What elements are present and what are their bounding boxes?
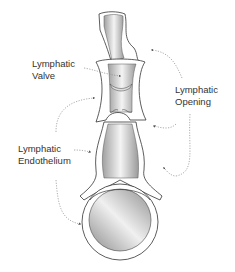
upper-vessel xyxy=(99,12,140,64)
label-line: Valve xyxy=(32,70,75,82)
label-line: Lymphatic xyxy=(175,84,218,96)
endothelium-leader-upper xyxy=(56,98,94,132)
label-lymphatic-valve: Lymphatic Valve xyxy=(32,58,75,82)
endothelium-leader-mid xyxy=(74,150,90,152)
lower-bulb xyxy=(82,184,158,260)
label-line: Lymphatic xyxy=(32,58,75,70)
label-lymphatic-opening: Lymphatic Opening xyxy=(175,84,218,108)
label-lymphatic-endothelium: Lymphatic Endothelium xyxy=(18,143,71,167)
label-line: Lymphatic xyxy=(18,143,71,155)
label-line: Opening xyxy=(175,96,218,108)
opening-leader-mid xyxy=(154,124,176,128)
label-line: Endothelium xyxy=(18,155,71,167)
valve-section xyxy=(96,59,146,122)
opening-leader-lower xyxy=(164,114,190,176)
lymphatic-vessel-diagram xyxy=(0,0,235,272)
opening-leader-upper xyxy=(152,50,182,78)
endothelium-leader-lower xyxy=(56,180,80,224)
